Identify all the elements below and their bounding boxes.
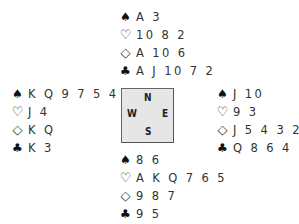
spade-icon: ♠ (216, 85, 229, 103)
spade-icon: ♠ (11, 85, 24, 103)
west-hearts: J 4 (28, 103, 50, 121)
heart-icon: ♡ (119, 26, 132, 44)
south-clubs: 9 5 (136, 205, 162, 223)
east-diamonds: J 5 4 3 2 (233, 121, 299, 139)
south-clubs-row: ♣ 9 5 (119, 205, 227, 223)
east-spades: J 10 (233, 85, 264, 103)
compass-box: N W E S (121, 88, 174, 143)
west-clubs: K 3 (28, 139, 54, 157)
compass-south-label: S (145, 126, 151, 137)
north-hearts-row: ♡ 10 8 2 (119, 26, 215, 44)
diamond-icon: ◇ (119, 44, 132, 62)
south-hand: ♠ 8 6 ♡ A K Q 7 6 5 ◇ 9 8 7 ♣ 9 5 (119, 151, 227, 223)
east-hearts-row: ♡ 9 3 (216, 103, 299, 121)
west-spades: K Q 9 7 5 4 2 (28, 85, 134, 103)
heart-icon: ♡ (216, 103, 229, 121)
spade-icon: ♠ (119, 151, 132, 169)
east-diamonds-row: ◇ J 5 4 3 2 (216, 121, 299, 139)
north-clubs-row: ♣ A J 10 7 2 (119, 62, 215, 80)
east-hearts: 9 3 (233, 103, 259, 121)
west-diamonds: K Q (28, 121, 55, 139)
west-clubs-row: ♣ K 3 (11, 139, 134, 157)
east-clubs-row: ♣ Q 8 6 4 (216, 139, 299, 157)
north-diamonds-row: ◇ A 10 6 (119, 44, 215, 62)
east-clubs: Q 8 6 4 (233, 139, 292, 157)
heart-icon: ♡ (119, 169, 132, 187)
north-spades: A 3 (136, 8, 162, 26)
club-icon: ♣ (119, 62, 132, 80)
north-spades-row: ♠ A 3 (119, 8, 215, 26)
south-spades-row: ♠ 8 6 (119, 151, 227, 169)
club-icon: ♣ (11, 139, 24, 157)
spade-icon: ♠ (119, 8, 132, 26)
south-hearts-row: ♡ A K Q 7 6 5 (119, 169, 227, 187)
north-diamonds: A 10 6 (136, 44, 188, 62)
west-hearts-row: ♡ J 4 (11, 103, 134, 121)
compass-east-label: E (162, 108, 168, 119)
south-diamonds-row: ◇ 9 8 7 (119, 187, 227, 205)
heart-icon: ♡ (11, 103, 24, 121)
south-hearts: A K Q 7 6 5 (136, 169, 227, 187)
compass-north-label: N (144, 92, 152, 103)
compass-west-label: W (127, 108, 137, 119)
diamond-icon: ◇ (119, 187, 132, 205)
north-hearts: 10 8 2 (136, 26, 187, 44)
north-clubs: A J 10 7 2 (136, 62, 215, 80)
east-spades-row: ♠ J 10 (216, 85, 299, 103)
west-spades-row: ♠ K Q 9 7 5 4 2 (11, 85, 134, 103)
club-icon: ♣ (119, 205, 132, 223)
south-spades: 8 6 (136, 151, 162, 169)
north-hand: ♠ A 3 ♡ 10 8 2 ◇ A 10 6 ♣ A J 10 7 2 (119, 8, 215, 80)
south-diamonds: 9 8 7 (136, 187, 177, 205)
west-hand: ♠ K Q 9 7 5 4 2 ♡ J 4 ◇ K Q ♣ K 3 (11, 85, 134, 157)
diamond-icon: ◇ (216, 121, 229, 139)
west-diamonds-row: ◇ K Q (11, 121, 134, 139)
diamond-icon: ◇ (11, 121, 24, 139)
east-hand: ♠ J 10 ♡ 9 3 ◇ J 5 4 3 2 ♣ Q 8 6 4 (216, 85, 299, 157)
